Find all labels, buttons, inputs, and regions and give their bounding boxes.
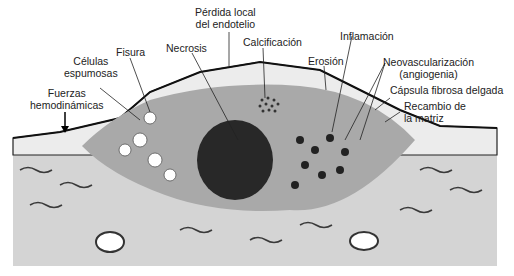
label-perdida-endotelio: Pérdida local del endotelio — [195, 6, 256, 30]
label-necrosis: Necrosis — [166, 42, 207, 54]
label-recambio-line2: la matriz — [404, 112, 466, 124]
label-fuerzas-line1: Fuerzas — [30, 87, 104, 99]
label-celulas-espumosas-line2: espumosas — [64, 67, 118, 79]
label-capsula-fibrosa: Cápsula fibrosa delgada — [390, 84, 503, 96]
label-neovascularizacion: Neovascularización (angiogenia) — [383, 56, 474, 80]
label-fisura: Fisura — [116, 46, 145, 58]
label-recambio-line1: Recambio de — [404, 100, 466, 112]
label-fuerzas-hemodinamicas: Fuerzas hemodinámicas — [30, 87, 104, 111]
label-perdida-endotelio-line2: del endotelio — [195, 18, 256, 30]
label-perdida-endotelio-line1: Pérdida local — [195, 6, 256, 18]
necrotic-core — [197, 120, 273, 200]
label-inflamacion: Inflamación — [340, 30, 394, 42]
label-celulas-espumosas: Células espumosas — [64, 55, 118, 79]
label-erosion: Erosión — [308, 55, 344, 67]
label-neovascularizacion-line1: Neovascularización — [383, 56, 474, 68]
label-neovascularizacion-line2: (angiogenia) — [383, 68, 474, 80]
label-calcificacion: Calcificación — [243, 36, 302, 48]
label-celulas-espumosas-line1: Células — [64, 55, 118, 67]
label-recambio-matriz: Recambio de la matriz — [404, 100, 466, 124]
label-fuerzas-line2: hemodinámicas — [30, 99, 104, 111]
